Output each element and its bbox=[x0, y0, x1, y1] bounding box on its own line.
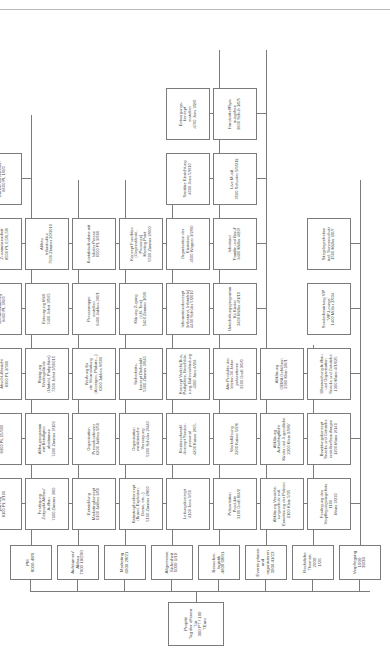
wbs-task-abbau-5-label: Abbau Infrastruktur 7500 Zimmer 20/3010 bbox=[40, 224, 54, 264]
wbs-task-verpflegung-5-label: Sitzgelegenheiten incl. Sonnenschutz 150… bbox=[322, 227, 336, 261]
wbs-task-marketing-5[interactable]: Kontaktaufnahme mit lokaler Presse 6500 … bbox=[72, 218, 116, 270]
leaf-stem-verpflegung-3 bbox=[351, 373, 361, 374]
wbs-task-abbau-1[interactable]: Festlegung Zeitpunkt Abbau/ Aufbau 7100 … bbox=[25, 478, 69, 530]
wbs-branch-pm[interactable]: PM 8000 48/0 bbox=[10, 545, 52, 580]
wbs-task-sicherheit-4[interactable]: Klärung Zugang (z.B. Tore) 5400 Zimmer 1… bbox=[119, 283, 163, 335]
leaf-stem-events-5 bbox=[257, 243, 267, 244]
wbs-task-besucher-7-label: Entsorgungs- konzept erstellen 4700 Jons… bbox=[179, 99, 197, 128]
wbs-task-marketing-3-label: Werbung für die Veranstaltung (Anzeigen,… bbox=[85, 354, 103, 393]
wbs-task-besucher-2-label: Kleiderschrank/ -konzept Service- person… bbox=[179, 423, 197, 455]
wbs-branch-marketing-label: Marketing 6000 28/21 bbox=[120, 552, 130, 574]
wbs-task-sicherheit-4-label: Klärung Zugang (z.B. Tore) 5400 Zimmer 1… bbox=[134, 292, 148, 326]
wbs-task-verpflegung-3[interactable]: Überwachung Aufbau und Organisation Snac… bbox=[307, 348, 351, 400]
wbs-task-events-2-label: Werksführung 3200 Kaiser 5/2/6 bbox=[230, 423, 239, 455]
branch-bus-events bbox=[266, 50, 267, 545]
branch-bus-verpflegung bbox=[360, 180, 361, 545]
spine-stub-abbau bbox=[77, 580, 78, 592]
wbs-task-besucher-5[interactable]: Organisation der Einweiser 4500 Wagner 3… bbox=[166, 218, 210, 270]
wbs-task-events-3[interactable]: Alte Produkte der letzten 30 Jahre präse… bbox=[213, 348, 257, 400]
wbs-branch-abbau[interactable]: Aufräumen/ Abbau 7000 19/200 bbox=[57, 545, 99, 580]
wbs-task-marketing-1-label: Entwicklung Marketingkonzept 6100 Jakbos… bbox=[87, 488, 101, 520]
wbs-task-verpflegung-4[interactable]: Sonderbewirtung VIP 'VIP-Lounge' 1400 Mü… bbox=[307, 283, 351, 335]
wbs-task-marketing-5-label: Kontaktaufnahme mit lokaler Presse 6500 … bbox=[87, 225, 101, 264]
wbs-task-pm-4[interactable]: Budgetplanung und Abstimmung 8400 PL 3/0… bbox=[0, 283, 22, 335]
spine-vertical bbox=[30, 591, 370, 592]
wbs-task-verpflegung-4-label: Sonderbewirtung VIP 'VIP-Lounge' 1400 Mü… bbox=[322, 290, 336, 329]
spine-stub-besucher bbox=[218, 580, 219, 592]
leaf-stem-verpflegung-4 bbox=[351, 308, 361, 309]
wbs-task-events-6[interactable]: Live Musik 3500 Schuster 5/0/21k bbox=[213, 153, 257, 205]
leaf-stem-pm-6 bbox=[22, 178, 32, 179]
wbs-branch-recht[interactable]: Rechtliche Themen 2000 1/26 bbox=[292, 545, 334, 580]
wbs-task-besucher-7[interactable]: Entsorgungs- konzept erstellen 4700 Jons… bbox=[166, 88, 210, 140]
wbs-task-abbau-3[interactable]: Reinigung Werksgelände (Umfeld, Parkplät… bbox=[25, 348, 69, 400]
wbs-task-besucher-3-label: Konzept Verkehr(Bus, Parkplätze, Beschil… bbox=[179, 354, 197, 395]
wbs-task-besucher-6-label: Sanitäre Einrichtung 4600 Jons 5/6/10 bbox=[183, 161, 192, 198]
wbs-task-events-2[interactable]: Werksführung 3200 Kaiser 5/2/6 bbox=[213, 413, 257, 465]
wbs-task-abbau-1-label: Festlegung Zeitpunkt Abbau/ Aufbau 7100 … bbox=[38, 487, 56, 520]
wbs-branch-events[interactable]: Events planen und organisieren 3000 41/2… bbox=[245, 545, 287, 580]
spine-stub-verpflegung bbox=[359, 580, 360, 592]
wbs-task-abbau-3-label: Reinigung Werksgelände (Umfeld, Parkplät… bbox=[38, 355, 56, 392]
wbs-task-marketing-1[interactable]: Entwicklung Marketingkonzept 6100 Jakbos… bbox=[72, 478, 116, 530]
wbs-task-verpflegung-5[interactable]: Sitzgelegenheiten incl. Sonnenschutz 150… bbox=[307, 218, 351, 270]
wbs-task-events-5-label: Infostand 'Familie und Beruf' 3400 Mülle… bbox=[228, 227, 242, 261]
wbs-task-besucher-3[interactable]: Konzept Verkehr(Bus, Parkplätze, Beschil… bbox=[166, 348, 210, 400]
root-to-spine bbox=[196, 591, 197, 602]
wbs-task-pm-1-label: Projekt-Termin- planung 8100 PL 3/100 bbox=[0, 490, 7, 518]
wbs-task-besucher-4-label: Informationskonzept (Infostand, Infotafe… bbox=[181, 290, 195, 329]
wbs-branch-verpflegung[interactable]: Verpflegung 1000 36/36 bbox=[339, 545, 381, 580]
wbs-task-verpflegung-2-label: Bewirtungskonzept Snacks und Getränke er… bbox=[320, 419, 338, 458]
leaf-stem-verpflegung-1 bbox=[351, 503, 361, 504]
wbs-task-pm-5[interactable]: Festlegung Spielregeln der Zusammenarbei… bbox=[0, 218, 22, 270]
wbs-branch-sicherheit[interactable]: Allgemeine Sicherheit 5000 1/10 bbox=[151, 545, 193, 580]
wbs-task-pm-2[interactable]: Projektsteuerung 8200 PL 15/300 bbox=[0, 413, 22, 465]
wbs-task-sicherheit-2[interactable]: Organisation medizinische Versorgung 520… bbox=[119, 413, 163, 465]
wbs-branch-pm-label: PM 8000 48/0 bbox=[26, 553, 36, 573]
wbs-diagram-stage: Projekt Tag der offenen Tür 360 PT / 100… bbox=[0, 0, 390, 656]
wbs-root-node[interactable]: Projekt Tag der offenen Tür 360 PT / 100… bbox=[168, 602, 224, 646]
wbs-task-marketing-2[interactable]: Organisation Pressekonferenz 6200 Jakbos… bbox=[72, 413, 116, 465]
wbs-task-marketing-2-label: Organisation Pressekonferenz 6200 Jakbos… bbox=[87, 423, 101, 455]
wbs-branch-abbau-label: Aufräumen/ Abbau 7000 19/200 bbox=[71, 550, 86, 574]
wbs-task-sicherheit-1[interactable]: Katastrophenkonzept (Brand, Explosion, D… bbox=[119, 478, 163, 530]
spine-stub-events bbox=[265, 580, 266, 592]
wbs-task-pm-6[interactable]: Abstimmungen mit BR durchführen 8600 PL … bbox=[0, 153, 22, 205]
wbs-task-marketing-3[interactable]: Werbung für die Veranstaltung (Anzeigen,… bbox=[72, 348, 116, 400]
wbs-task-recht-1[interactable]: Abklärung Versiche- rungsschutz evtl. Er… bbox=[260, 478, 304, 530]
wbs-task-sicherheit-3-label: Sicherheits- konzept Diebstahl 5300 Zimm… bbox=[134, 356, 148, 392]
leaf-stem-events-7 bbox=[257, 113, 267, 114]
wbs-branch-besucher[interactable]: Besucher- logistik 4000 68/01 bbox=[198, 545, 240, 580]
wbs-task-verpflegung-1[interactable]: Festlegung des Verpflegungsangebots 1100… bbox=[307, 478, 351, 530]
spine-stub-marketing bbox=[124, 580, 125, 592]
wbs-task-pm-3[interactable]: Projektdokumen- tation/ Abschlußbericht … bbox=[0, 348, 22, 400]
wbs-root-label: Projekt Tag der offenen Tür 360 PT / 100… bbox=[184, 605, 209, 643]
wbs-task-besucher-4[interactable]: Informationskonzept (Infostand, Infotafe… bbox=[166, 283, 210, 335]
wbs-task-abbau-2-label: Abbauprogramm mit Beteiligten abstimmen … bbox=[38, 421, 56, 457]
wbs-task-events-5[interactable]: Infostand 'Familie und Beruf' 3400 Mülle… bbox=[213, 218, 257, 270]
wbs-task-events-7-label: Handzettel/Flyer ausgeben 3600 Schuh 1/0… bbox=[228, 98, 242, 130]
wbs-task-sicherheit-5[interactable]: Konzept Fundbüro (Gegenstände, Personen)… bbox=[119, 218, 163, 270]
wbs-task-abbau-2[interactable]: Abbauprogramm mit Beteiligten abstimmen … bbox=[25, 413, 69, 465]
wbs-task-pm-1[interactable]: Projekt-Termin- planung 8100 PL 3/100 bbox=[0, 478, 22, 530]
wbs-task-events-4[interactable]: Unterhaltungsprogramm für Kinder 3400 Mü… bbox=[213, 283, 257, 335]
wbs-task-recht-2[interactable]: Abklärung Aufsichtspflicht Kinder und Ju… bbox=[260, 413, 304, 465]
wbs-task-abbau-5[interactable]: Abbau Infrastruktur 7500 Zimmer 20/3010 bbox=[25, 218, 69, 270]
wbs-branch-besucher-label: Besucher- logistik 4000 68/01 bbox=[212, 552, 227, 574]
wbs-branch-marketing[interactable]: Marketing 6000 28/21 bbox=[104, 545, 146, 580]
wbs-task-recht-3[interactable]: Abklärung GEMA Gebühren 2300 Klein 1/0/1 bbox=[260, 348, 304, 400]
wbs-branch-verpflegung-label: Verpflegung 1000 36/36 bbox=[353, 551, 368, 574]
wbs-task-besucher-1[interactable]: Leitungskonzept 4100 Jons 5/50 bbox=[166, 478, 210, 530]
wbs-task-besucher-6[interactable]: Sanitäre Einrichtung 4600 Jons 5/6/10 bbox=[166, 153, 210, 205]
wbs-task-marketing-4[interactable]: Pressemappe erstellen 6400 Jakbos 3/0/1 bbox=[72, 283, 116, 335]
wbs-task-recht-3-label: Abklärung GEMA Gebühren 2300 Klein 1/0/1 bbox=[275, 358, 289, 389]
wbs-branch-recht-label: Rechtliche Themen 2000 1/26 bbox=[303, 548, 323, 577]
wbs-task-sicherheit-5-label: Konzept Fundbüro (Gegenstände, Personen)… bbox=[130, 221, 153, 267]
wbs-task-events-1[interactable]: Präsentation Produkte 3100 Groß 8/4/2 bbox=[213, 478, 257, 530]
wbs-task-besucher-5-label: Organisation der Einweiser 4500 Wagner 3… bbox=[181, 226, 195, 263]
wbs-task-abbau-4[interactable]: Entsorgung Müll 7400 Jobst 3/565 bbox=[25, 283, 69, 335]
wbs-task-verpflegung-2[interactable]: Bewirtungskonzept Snacks und Getränke er… bbox=[307, 413, 351, 465]
wbs-task-events-7[interactable]: Handzettel/Flyer ausgeben 3600 Schuh 1/0… bbox=[213, 88, 257, 140]
wbs-task-sicherheit-3[interactable]: Sicherheits- konzept Diebstahl 5300 Zimm… bbox=[119, 348, 163, 400]
wbs-task-besucher-2[interactable]: Kleiderschrank/ -konzept Service- person… bbox=[166, 413, 210, 465]
